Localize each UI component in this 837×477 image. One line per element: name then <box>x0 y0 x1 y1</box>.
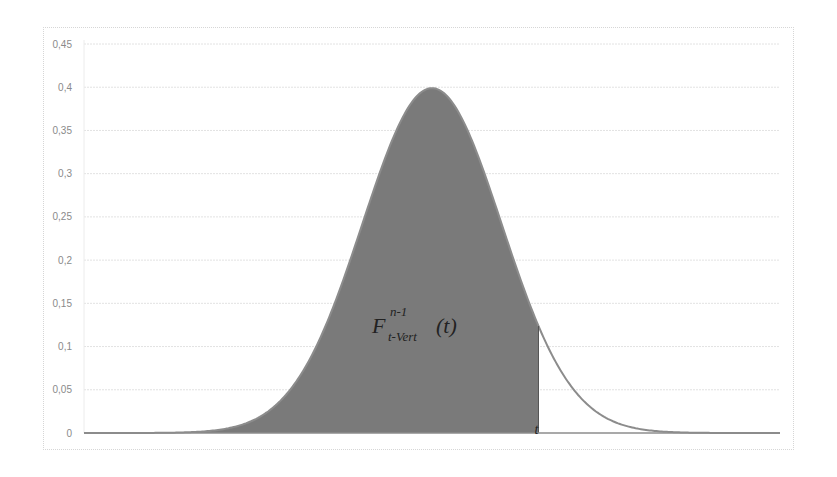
formula-base: F <box>371 313 386 338</box>
y-tick-label: 0,25 <box>53 211 73 222</box>
y-tick-label: 0 <box>66 428 72 439</box>
y-tick-label: 0,15 <box>53 298 73 309</box>
formula-superscript: n-1 <box>390 304 407 319</box>
y-tick-label: 0,35 <box>53 125 73 136</box>
formula-subscript: t-Vert <box>388 329 417 344</box>
shaded-area <box>84 88 538 433</box>
y-tick-label: 0,05 <box>53 384 73 395</box>
y-tick-label: 0,2 <box>58 255 72 266</box>
y-tick-label: 0,45 <box>53 39 73 50</box>
normal-distribution-chart: 00,050,10,150,20,250,30,350,40,45 t F n-… <box>0 0 837 477</box>
y-tick-label: 0,1 <box>58 341 72 352</box>
formula-argument: (t) <box>436 313 457 338</box>
y-tick-label: 0,4 <box>58 82 72 93</box>
y-tick-label: 0,3 <box>58 168 72 179</box>
y-axis-ticks: 00,050,10,150,20,250,30,350,40,45 <box>53 39 73 439</box>
